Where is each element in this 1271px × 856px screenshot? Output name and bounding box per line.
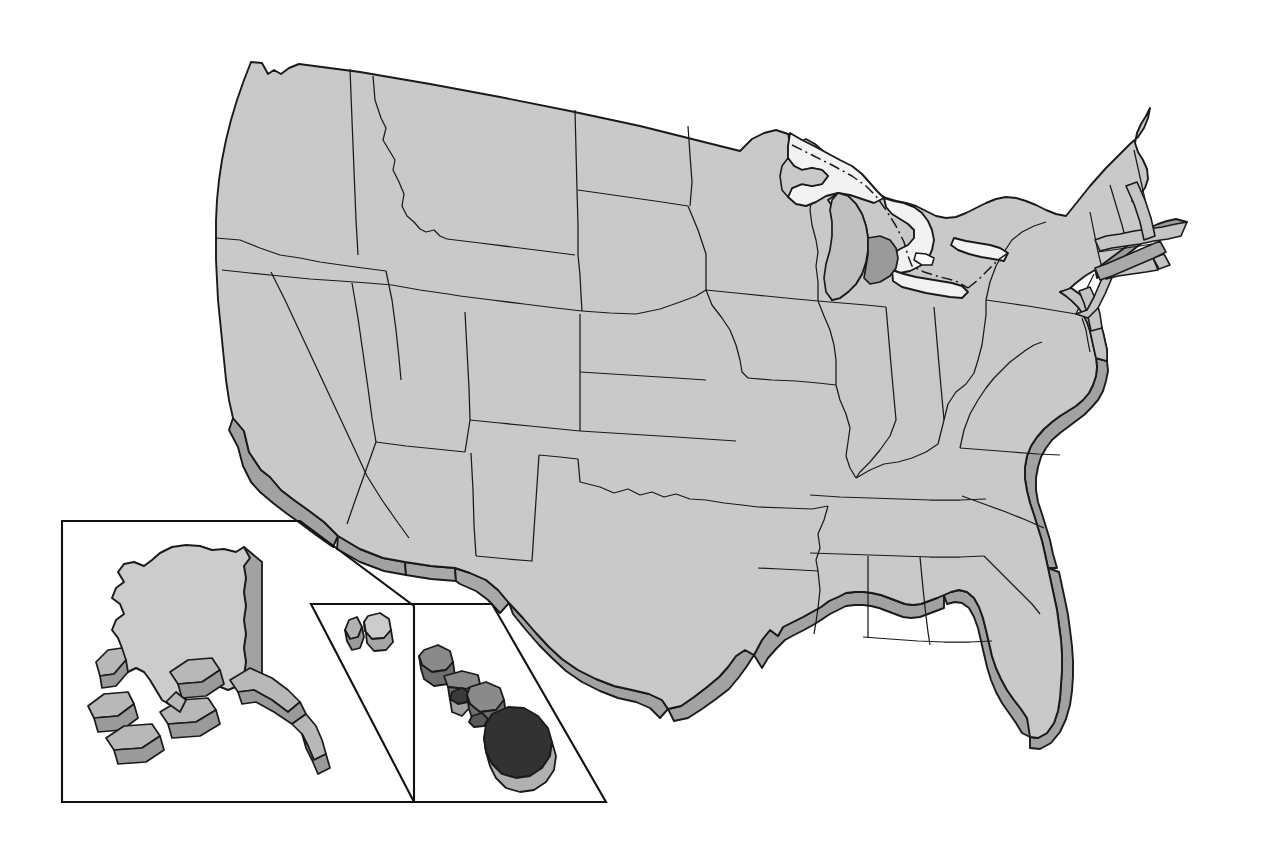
us-extruded-map: [0, 0, 1271, 856]
map-figure: [0, 0, 1271, 856]
